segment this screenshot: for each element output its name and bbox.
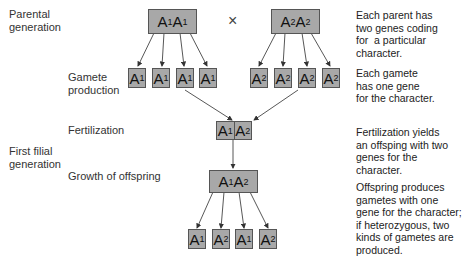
allele-letter: A bbox=[280, 13, 290, 30]
stage-label-fertilization: Fertilization bbox=[68, 124, 124, 137]
offspring-gamete-2: A2 bbox=[212, 229, 230, 249]
allele-letter: A bbox=[323, 70, 333, 87]
allele-letter: A bbox=[235, 122, 245, 139]
allele-letter: A bbox=[251, 70, 261, 87]
gamete-p1-4: A1 bbox=[199, 68, 217, 88]
allele-letter: A bbox=[200, 70, 210, 87]
allele-letter: A bbox=[275, 70, 285, 87]
offspring-gamete-1: A1 bbox=[188, 229, 206, 249]
allele-letter: A bbox=[129, 70, 139, 87]
allele-letter: A bbox=[213, 231, 223, 248]
parent-2-genotype: A2A2 bbox=[271, 9, 320, 34]
zygote-right-allele: A2 bbox=[234, 122, 252, 139]
stage-label-first-filial: First filial generation bbox=[9, 145, 61, 171]
stage-label-parental: Parental generation bbox=[9, 8, 61, 34]
allele-letter: A bbox=[218, 122, 228, 139]
gamete-p1-2: A1 bbox=[152, 68, 170, 88]
allele-letter: A bbox=[177, 70, 187, 87]
zygote-left-allele: A1 bbox=[217, 122, 234, 139]
description-gametes: Each gamete has one gene for the charact… bbox=[356, 67, 435, 105]
offspring-gamete-3: A1 bbox=[235, 229, 253, 249]
offspring-gamete-4: A2 bbox=[259, 229, 277, 249]
gamete-p2-1: A2 bbox=[250, 68, 268, 88]
allele-letter: A bbox=[236, 231, 246, 248]
parent-1-genotype: A1A1 bbox=[148, 9, 197, 34]
allele-letter: A bbox=[157, 13, 167, 30]
gamete-p2-2: A2 bbox=[274, 68, 292, 88]
cross-symbol: × bbox=[228, 12, 237, 30]
description-fertilization: Fertilization yields an offsping with tw… bbox=[356, 126, 448, 176]
gamete-p2-4: A2 bbox=[322, 68, 340, 88]
offspring-genotype: A1A2 bbox=[209, 170, 258, 193]
stage-label-gamete-production: Gamete production bbox=[68, 71, 119, 97]
gamete-p1-3: A1 bbox=[176, 68, 194, 88]
zygote-genotype: A1 A2 bbox=[216, 121, 252, 140]
description-offspring: Offspring produces gametes with one gene… bbox=[356, 181, 462, 256]
stage-label-growth: Growth of offspring bbox=[68, 170, 161, 183]
allele-letter: A bbox=[153, 70, 163, 87]
gamete-p2-3: A2 bbox=[298, 68, 316, 88]
allele-letter: A bbox=[260, 231, 270, 248]
allele-letter: A bbox=[218, 173, 228, 190]
allele-letter: A bbox=[234, 173, 244, 190]
allele-letter: A bbox=[189, 231, 199, 248]
allele-letter: A bbox=[173, 13, 183, 30]
allele-letter: A bbox=[296, 13, 306, 30]
allele-letter: A bbox=[299, 70, 309, 87]
description-parents: Each parent has two genes coding for a p… bbox=[356, 9, 438, 59]
gamete-p1-1: A1 bbox=[128, 68, 146, 88]
